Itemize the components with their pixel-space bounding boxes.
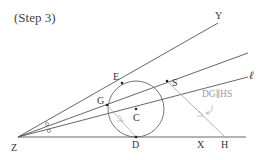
angle-mark-1-icon	[45, 122, 48, 125]
label-y: Y	[215, 10, 222, 21]
point-d	[135, 136, 138, 139]
callout-curve	[206, 105, 212, 113]
ray-l	[18, 77, 248, 137]
point-g	[106, 104, 109, 107]
arrow-dg-icon	[117, 115, 123, 121]
label-g: G	[97, 95, 104, 106]
arrow-hs-icon	[197, 111, 203, 116]
label-d: D	[132, 139, 139, 150]
geometry-diagram: (Step 3) DG∥HS Y E G C	[0, 0, 270, 160]
point-s	[166, 80, 169, 83]
angle-mark-2-icon	[47, 129, 50, 132]
label-x: X	[197, 139, 205, 150]
label-z: Z	[11, 142, 17, 153]
point-e	[121, 82, 124, 85]
step-title: (Step 3)	[14, 10, 56, 25]
label-h: H	[221, 139, 228, 150]
diagram-stage: (Step 3) DG∥HS Y E G C	[0, 0, 270, 160]
label-s: S	[172, 77, 178, 88]
point-c	[135, 108, 138, 111]
label-c: C	[133, 112, 140, 123]
label-e: E	[113, 71, 119, 82]
parallel-note: DG∥HS	[202, 89, 232, 99]
label-l: ℓ	[249, 69, 254, 81]
